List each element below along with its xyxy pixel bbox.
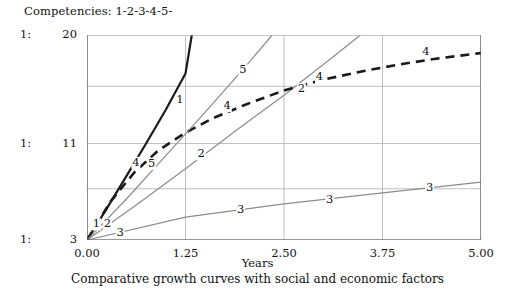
curve-label-3: 3 <box>426 180 433 194</box>
x-axis-title: Years <box>0 256 515 270</box>
curve-label-3: 3 <box>116 225 123 239</box>
curve-2 <box>87 35 360 240</box>
y-axis-ratio-label: 1: <box>20 138 44 150</box>
curve-label-5: 5 <box>148 156 155 170</box>
curve-label-2: 2 <box>104 216 111 230</box>
curve-label-3: 3 <box>326 192 333 206</box>
curve-inline-labels: 112223333444455 <box>92 44 434 239</box>
y-axis-ratio-label: 1: <box>20 29 44 41</box>
gridlines <box>87 35 481 240</box>
curve-label-4: 4 <box>316 69 323 83</box>
y-axis-tick-label: 20 <box>43 29 77 41</box>
y-axis-tick-label: 11 <box>43 138 77 150</box>
curve-label-4: 4 <box>132 155 139 169</box>
curve-label-4: 4 <box>224 98 231 112</box>
y-axis-ratio-label: 1: <box>20 234 44 246</box>
curve-label-5: 5 <box>239 62 246 76</box>
y-axis-tick-label: 3 <box>43 234 77 246</box>
curve-label-2: 2 <box>198 146 205 160</box>
competencies-legend-header: Competencies: 1-2-3-4-5- <box>24 4 172 18</box>
growth-curves-svg: 112223333444455 <box>87 35 481 240</box>
curve-label-1: 1 <box>93 216 100 230</box>
curve-label-4: 4 <box>422 44 429 58</box>
chart-plot-area: 112223333444455 <box>87 35 481 240</box>
curve-label-2: 2 <box>298 81 305 95</box>
curve-label-3: 3 <box>237 202 244 216</box>
curve-label-1: 1 <box>176 92 183 106</box>
chart-caption: Comparative growth curves with social an… <box>0 272 515 286</box>
